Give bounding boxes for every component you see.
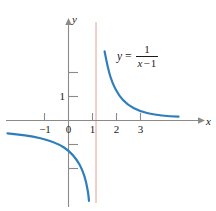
- fraction-numerator: 1: [142, 44, 152, 56]
- y-axis-label: y: [72, 14, 77, 25]
- y-tick-label-1: 1: [56, 91, 65, 102]
- denominator-variable: x: [138, 57, 143, 69]
- y-axis-arrowhead: [65, 18, 71, 25]
- x-axis-label: x: [206, 116, 211, 127]
- x-tick-label-1: 1: [86, 124, 99, 135]
- fraction-denominator: x−1: [136, 57, 159, 69]
- x-tick-label-2: 2: [110, 124, 123, 135]
- x-tick-label-minus-1: −1: [38, 124, 52, 135]
- plot-canvas: [0, 0, 216, 211]
- denominator-constant: 1: [151, 57, 157, 69]
- function-graph-figure: y x −1 0 1 2 3 1 y = 1 x−1: [0, 0, 216, 211]
- equation-annotation: y = 1 x−1: [117, 44, 158, 69]
- denominator-operator: −: [143, 57, 151, 69]
- x-tick-label-3: 3: [134, 124, 147, 135]
- equation-equals-sign: =: [125, 51, 132, 63]
- curve-left-branch: [8, 133, 90, 201]
- equation-fraction: 1 x−1: [136, 44, 159, 69]
- equation-lhs: y: [117, 51, 122, 63]
- x-tick-label-0: 0: [62, 124, 75, 135]
- x-axis-arrowhead: [198, 117, 205, 123]
- x-axis-ticks: [45, 113, 141, 121]
